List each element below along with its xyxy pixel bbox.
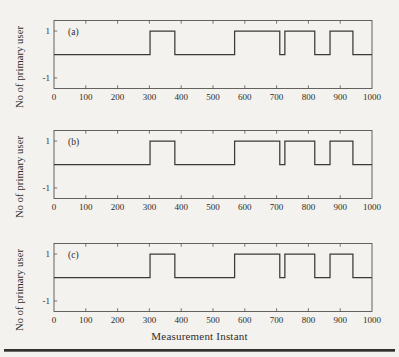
- panel-tag: (a): [68, 27, 79, 38]
- data-series-line: [54, 141, 372, 164]
- x-tick-label: 800: [302, 92, 316, 102]
- chart-panel-c: No of primary user 010020030040050060070…: [0, 243, 399, 331]
- x-tick-label: 0: [52, 315, 57, 325]
- x-tick-label: 100: [79, 202, 93, 212]
- y-axis-label-a: No of primary user: [14, 26, 25, 108]
- x-tick-label: 300: [143, 315, 157, 325]
- x-tick-label: 900: [333, 92, 347, 102]
- x-tick-label: 700: [270, 202, 284, 212]
- y-tick-label: 1: [46, 249, 51, 259]
- chart-panel-b: No of primary user 010020030040050060070…: [0, 130, 399, 218]
- x-tick-label: 700: [270, 315, 284, 325]
- y-tick-label: 1: [46, 26, 51, 36]
- x-tick-label: 600: [238, 315, 252, 325]
- x-tick-label: 100: [79, 315, 93, 325]
- x-tick-label: 0: [52, 202, 57, 212]
- y-tick-label: 1: [46, 136, 51, 146]
- plot-area-a: 01002003004005006007008009001000-11(a): [0, 20, 399, 108]
- x-tick-label: 800: [302, 315, 316, 325]
- x-tick-label: 200: [111, 92, 125, 102]
- x-tick-label: 500: [206, 202, 220, 212]
- plot-area-b: 01002003004005006007008009001000-11(b): [0, 130, 399, 218]
- panel-tag: (c): [68, 250, 79, 261]
- x-tick-label: 300: [143, 202, 157, 212]
- x-tick-label: 500: [206, 92, 220, 102]
- figure-container: No of primary user 010020030040050060070…: [0, 0, 399, 357]
- chart-panel-a: No of primary user 010020030040050060070…: [0, 20, 399, 108]
- data-series-line: [54, 254, 372, 277]
- data-series-line: [54, 31, 372, 54]
- x-tick-label: 500: [206, 315, 220, 325]
- x-tick-label: 400: [174, 202, 188, 212]
- x-tick-label: 400: [174, 92, 188, 102]
- x-tick-label: 0: [52, 92, 57, 102]
- x-tick-label: 1000: [363, 315, 382, 325]
- footer-divider: [4, 349, 395, 352]
- x-tick-label: 300: [143, 92, 157, 102]
- x-tick-label: 1000: [363, 92, 382, 102]
- y-tick-label: -1: [43, 183, 51, 193]
- x-tick-label: 800: [302, 202, 316, 212]
- x-tick-label: 200: [111, 202, 125, 212]
- x-tick-label: 900: [333, 202, 347, 212]
- y-axis-label-b: No of primary user: [14, 136, 25, 218]
- x-tick-label: 1000: [363, 202, 382, 212]
- x-tick-label: 700: [270, 92, 284, 102]
- y-axis-label-c: No of primary user: [14, 249, 25, 331]
- panel-tag: (b): [68, 137, 79, 148]
- plot-area-c: 01002003004005006007008009001000-11(c): [0, 243, 399, 331]
- x-tick-label: 200: [111, 315, 125, 325]
- x-tick-label: 400: [174, 315, 188, 325]
- y-tick-label: -1: [43, 73, 51, 83]
- x-tick-label: 600: [238, 202, 252, 212]
- y-tick-label: -1: [43, 296, 51, 306]
- x-tick-label: 600: [238, 92, 252, 102]
- x-axis-label: Measurement Instant: [0, 330, 399, 342]
- x-tick-label: 900: [333, 315, 347, 325]
- x-tick-label: 100: [79, 92, 93, 102]
